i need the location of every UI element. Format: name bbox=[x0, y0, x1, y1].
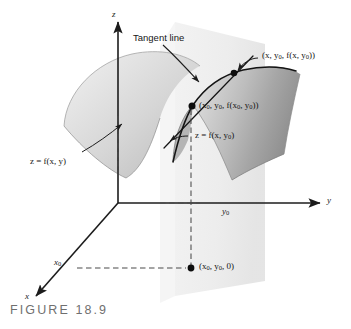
point-upper-dot bbox=[231, 70, 238, 77]
z-axis-label: z bbox=[112, 10, 116, 19]
trace-curve-label: z = f(x, y0) bbox=[195, 131, 234, 141]
point-tangency-label: (x0, y0, f(x0, y0)) bbox=[199, 101, 259, 111]
figure-caption: FIGURE 18.9 bbox=[10, 303, 108, 317]
point-upper-label: (x, y0, f(x, y0)) bbox=[262, 51, 315, 61]
x-axis-label: x bbox=[25, 292, 29, 301]
point-tangency-dot bbox=[189, 103, 196, 110]
x0-tick-label: x0 bbox=[54, 258, 61, 268]
surface-label: z = f(x, y) bbox=[30, 157, 66, 166]
point-base-dot bbox=[188, 265, 195, 272]
y-axis-label: y bbox=[327, 196, 331, 205]
figure-container: z y x y0 x0 Tangent line (x, y0, f(x, y0… bbox=[0, 0, 351, 329]
x-axis bbox=[36, 203, 118, 296]
y0-tick-label: y0 bbox=[222, 207, 229, 217]
point-base-label: (x0, y0, 0) bbox=[199, 262, 234, 272]
tangent-line-label: Tangent line bbox=[133, 33, 184, 43]
